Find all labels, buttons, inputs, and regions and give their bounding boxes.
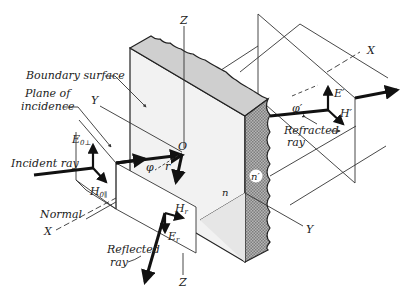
y-axis-left-label: Y (91, 94, 100, 107)
origin-label: O (178, 140, 187, 153)
refracted-e-label: E′ (333, 87, 345, 100)
horizontal-plane-left-edge (218, 46, 258, 72)
angle-refraction-label: φ′ (292, 102, 303, 115)
angle-incidence-label: φ (146, 161, 154, 174)
reflected-ray-leader (128, 256, 141, 262)
incident-e-label: E0⊥ (71, 133, 91, 147)
plane-of-incidence-label-line1: Plane of (24, 87, 72, 100)
incident-h-label: H0∥ (89, 185, 107, 199)
reflected-ray-label-line2: ray (110, 256, 129, 269)
z-axis-top-label: Z (179, 14, 188, 27)
x-axis-right (327, 52, 360, 72)
refracted-ray-arrow (355, 90, 397, 98)
refracted-h-label: H′ (339, 107, 353, 120)
incident-h-vector (93, 168, 106, 182)
plane-of-incidence-label-line2: incidence (21, 100, 75, 113)
normal-label: Normal (39, 208, 82, 221)
angle-reflection-label: r (165, 160, 171, 173)
boundary-surface-label: Boundary surface (25, 69, 125, 82)
z-axis-bottom-label: Z (178, 276, 187, 289)
x-axis-left-label: X (43, 225, 53, 238)
y-axis-right-label: Y (306, 223, 315, 236)
x-axis-right-label: X (366, 44, 376, 57)
refracted-ray-label-line2: ray (287, 136, 306, 149)
medium-n-prime-label: n′ (251, 171, 260, 182)
medium-n-label: n (222, 187, 228, 198)
reflected-ray-label-line1: Reflected (106, 243, 160, 256)
incident-ray-label: Incident ray (10, 157, 79, 170)
diagram-canvas: Z Y Y X Z E0⊥ H0∥ φ r O Hr Er E′ H′ φ′ (0, 0, 404, 291)
